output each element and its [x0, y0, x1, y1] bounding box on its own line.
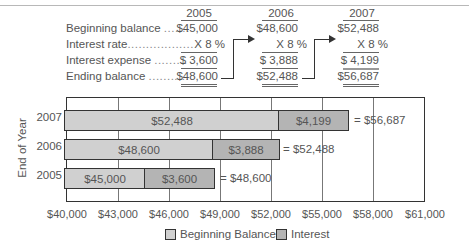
value-interest-2005: $ 3,600	[170, 54, 218, 66]
value-interest-2007: $ 4,199	[331, 54, 379, 66]
interest-underline	[262, 68, 298, 69]
total-2006: = $52,488	[283, 143, 334, 155]
header-underline	[262, 20, 298, 21]
header-underline	[343, 20, 379, 21]
value-ending-2007: $56,687	[331, 70, 379, 82]
value-beginning-2007: $52,488	[331, 22, 379, 34]
value-beginning-2006: $48,600	[250, 22, 298, 34]
y-tick-2006: 2006	[32, 140, 62, 152]
header-underline	[181, 20, 217, 21]
value-interest-2006: $ 3,888	[250, 54, 298, 66]
value-ending-2005: $48,600	[170, 70, 218, 82]
ending-double-underline	[262, 84, 298, 87]
value-rate-2005: X 8 %	[170, 38, 225, 50]
bar-beginning-2007: $52,488	[64, 110, 280, 131]
ending-double-underline	[181, 84, 217, 87]
legend-label-interest: Interest	[291, 228, 329, 240]
x-tick: $61,000	[395, 208, 455, 220]
legend-label-beginning-balance: Beginning Balance	[180, 228, 276, 240]
value-ending-2006: $52,488	[250, 70, 298, 82]
y-axis-label: End of Year	[16, 118, 28, 178]
value-beginning-2005: $45,000	[170, 22, 218, 34]
y-tick-2005: 2005	[32, 169, 62, 181]
year-header-2005: 2005	[180, 7, 218, 19]
bar-beginning-2006: $48,600	[64, 139, 214, 160]
bar-beginning-2005: $45,000	[64, 168, 146, 189]
interest-underline	[181, 68, 217, 69]
bar-interest-2006: $3,888	[212, 139, 280, 160]
year-header-2006: 2006	[262, 7, 300, 19]
value-rate-2007: X 8 %	[331, 38, 388, 50]
year-header-2007: 2007	[343, 7, 381, 19]
rate-underline	[343, 52, 379, 53]
rate-underline	[262, 52, 298, 53]
legend-swatch-beginning-balance	[165, 229, 176, 240]
bar-interest-2005: $3,600	[144, 168, 215, 189]
top-rule	[0, 5, 469, 6]
rate-underline	[181, 52, 217, 53]
legend-swatch-interest	[276, 229, 287, 240]
total-2007: = $56,687	[354, 114, 405, 126]
bar-interest-2007: $4,199	[278, 110, 349, 131]
x-tick: $58,000	[343, 208, 403, 220]
value-rate-2006: X 8 %	[250, 38, 307, 50]
y-tick-2007: 2007	[32, 111, 62, 123]
ending-double-underline	[343, 84, 379, 87]
total-2005: = $48,600	[220, 172, 271, 184]
